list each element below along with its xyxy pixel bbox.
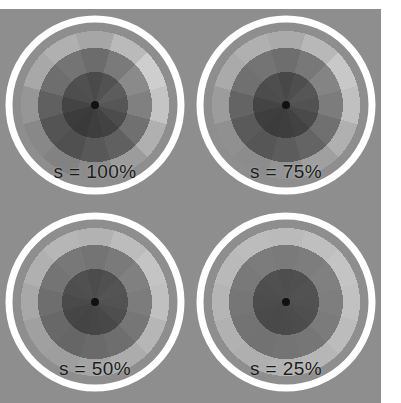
wheel-sector xyxy=(212,86,231,124)
wheel-center-dot xyxy=(91,298,99,306)
figure-root: s = 100%s = 75%s = 50%s = 25% xyxy=(0,0,401,403)
wheel-sector xyxy=(212,283,231,321)
wheel-sector xyxy=(76,31,114,50)
wheel-center-dot xyxy=(282,298,290,306)
wheel-center-dot xyxy=(282,101,290,109)
wheel-panel: s = 50% xyxy=(0,206,190,403)
wheel-center-dot xyxy=(91,101,99,109)
wheel-panel: s = 100% xyxy=(0,9,190,206)
wheel-saturation-label: s = 25% xyxy=(191,358,381,380)
wheel-sector xyxy=(267,31,305,50)
wheel-saturation-label: s = 100% xyxy=(0,161,190,183)
wheel-grid: s = 100%s = 75%s = 50%s = 25% xyxy=(0,9,381,403)
wheel-sector xyxy=(150,86,169,124)
wheel-sector xyxy=(341,86,360,124)
wheel-sector xyxy=(21,86,40,124)
wheel-panel: s = 25% xyxy=(191,206,381,403)
wheel-sector xyxy=(21,283,40,321)
wheel-sector xyxy=(341,283,360,321)
wheel-sector xyxy=(150,283,169,321)
wheel-saturation-label: s = 75% xyxy=(191,161,381,183)
wheel-sector xyxy=(76,228,114,247)
wheel-saturation-label: s = 50% xyxy=(0,358,190,380)
wheel-panel: s = 75% xyxy=(191,9,381,206)
wheel-sector xyxy=(267,228,305,247)
